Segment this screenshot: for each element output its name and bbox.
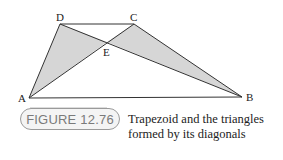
vertex-label-d: D: [56, 11, 64, 23]
vertex-label-e: E: [103, 46, 110, 58]
caption-line-1: Trapezoid and the triangles: [128, 112, 278, 127]
shaded-triangle-bce: [107, 24, 242, 97]
vertex-label-b: B: [246, 91, 253, 103]
vertex-label-c: C: [130, 11, 137, 23]
caption-line-2: formed by its diagonals: [128, 127, 278, 142]
vertex-label-a: A: [18, 92, 26, 104]
trapezoid-diagram: D C E A B: [0, 0, 283, 110]
side-ab: [29, 97, 242, 98]
figure-caption: Trapezoid and the triangles formed by it…: [128, 112, 278, 142]
shaded-triangle-ade: [29, 24, 107, 98]
figure-number-badge: FIGURE 12.76: [20, 108, 120, 130]
